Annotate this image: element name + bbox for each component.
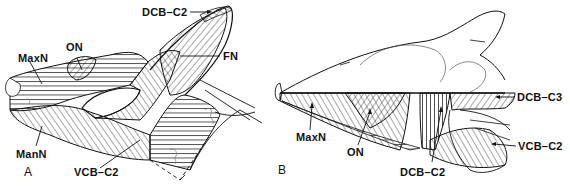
label-dcb-c2-a: DCB–C2 [142,6,187,18]
panel-a: MaxN ON DCB–C2 FN ManN VCB–C2 A [0,0,280,195]
dcb-c3-region-b [450,93,515,110]
label-on-b: ON [347,146,364,158]
label-fn-a: FN [223,50,238,62]
label-on-a: ON [66,41,83,53]
panel-letter-b: B [278,164,286,176]
panel-a-drawing [0,0,280,195]
label-mann-a: ManN [16,148,47,160]
label-dcb-c2-b: DCB–C2 [400,166,445,178]
vcb-c2-region-a [150,95,220,170]
label-vcb-c2-b: VCB–C2 [518,140,563,152]
label-maxn-b: MaxN [296,131,326,143]
label-maxn-a: MaxN [18,52,48,64]
fn-region [160,8,227,95]
head-outline-b [280,11,505,93]
panel-letter-a: A [24,166,32,178]
label-dcb-c3-b: DCB–C3 [517,91,562,103]
label-vcb-c2-a: VCB–C2 [74,166,119,178]
vcb-c2-region-b [430,128,507,167]
panel-b: DCB–C3 MaxN ON VCB–C2 DCB–C2 B [270,0,570,195]
